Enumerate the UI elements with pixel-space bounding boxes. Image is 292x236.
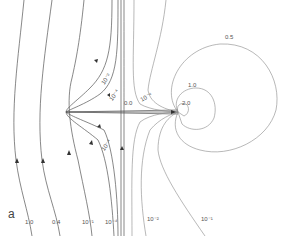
streamline-5 <box>66 0 118 236</box>
label-contour-1-0: 1.0 <box>188 82 196 88</box>
arrow-icon <box>67 150 71 155</box>
streamline-3 <box>69 0 92 236</box>
panel-label: a <box>8 207 15 221</box>
streamline-1 <box>14 0 32 236</box>
arrow-icon <box>89 140 93 145</box>
label-bottom-3: 10⁻¹ <box>82 219 94 225</box>
diagram-canvas <box>0 0 292 236</box>
contour-0-5 <box>171 44 277 152</box>
arrow-icon <box>120 146 124 150</box>
label-bottom-6: 10⁻¹ <box>201 216 213 222</box>
label-contour-0-5: 0.5 <box>225 34 233 40</box>
label-bottom-5: 10⁻² <box>147 216 159 222</box>
label-inner-3: 0.0 <box>124 100 132 106</box>
label-contour-2-0: 2.0 <box>182 100 190 106</box>
contour-1-0 <box>176 88 215 129</box>
label-bottom-1: 1.0 <box>25 219 33 225</box>
arrow-icon <box>97 124 101 128</box>
streamline-2 <box>40 0 60 236</box>
arrow-icon <box>94 59 98 63</box>
label-bottom-4: 10⁻⁴ <box>105 219 117 225</box>
streamline-diagram: a 1.0 0.4 10⁻¹ 10⁻⁴ 10⁻² 10⁻¹ 10⁻² 10⁻⁴ … <box>0 0 292 236</box>
label-bottom-2: 0.4 <box>52 219 60 225</box>
streamline-4 <box>66 0 114 236</box>
